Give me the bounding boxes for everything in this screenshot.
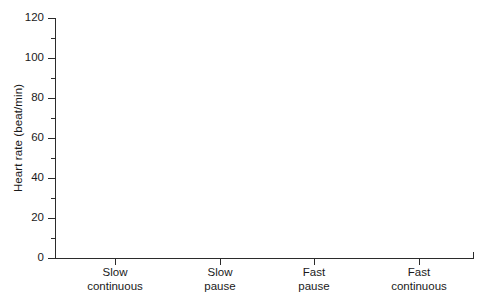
y-tick-label-0-wrap: 0: [0, 252, 44, 264]
x-axis-line: [55, 258, 474, 259]
plot-area: [56, 18, 474, 258]
y-tick-major-80: [48, 98, 55, 99]
y-tick-label-40-wrap: 40: [0, 172, 44, 184]
y-tick-label-80: 80: [0, 92, 44, 104]
x-tick-label-4-line1: Fast: [408, 266, 430, 278]
y-tick-label-100: 100: [0, 52, 44, 64]
y-tick-label-120: 120: [0, 12, 44, 24]
y-tick-label-80-wrap: 80: [0, 92, 44, 104]
y-tick-label-100-wrap: 100: [0, 52, 44, 64]
x-tick-label-4: Fast continuous: [354, 265, 482, 293]
y-tick-major-120: [48, 18, 55, 19]
y-tick-major-60: [48, 138, 55, 139]
x-axis-end-tick: [473, 252, 474, 258]
y-tick-minor-10: [51, 238, 55, 239]
y-tick-minor-50: [51, 158, 55, 159]
y-tick-minor-30: [51, 198, 55, 199]
y-tick-label-0: 0: [0, 252, 44, 264]
y-tick-major-20: [48, 218, 55, 219]
y-tick-minor-70: [51, 118, 55, 119]
chart-figure: Heart rate (beat/min) 120 100 80 60 40 2…: [0, 0, 482, 302]
y-tick-label-60-wrap: 60: [0, 132, 44, 144]
y-tick-minor-90: [51, 78, 55, 79]
y-tick-label-40: 40: [0, 172, 44, 184]
y-tick-label-20: 20: [0, 212, 44, 224]
y-tick-major-100: [48, 58, 55, 59]
y-tick-major-0: [48, 258, 55, 259]
x-tick-label-2-line1: Slow: [208, 266, 233, 278]
y-tick-label-60: 60: [0, 132, 44, 144]
x-tick-label-4-line2: continuous: [354, 279, 482, 293]
x-tick-label-1-line1: Slow: [103, 266, 128, 278]
y-tick-label-120-wrap: 120: [0, 12, 44, 24]
y-tick-label-20-wrap: 20: [0, 212, 44, 224]
y-tick-minor-110: [51, 38, 55, 39]
y-tick-major-40: [48, 178, 55, 179]
x-tick-label-3-line1: Fast: [303, 266, 325, 278]
